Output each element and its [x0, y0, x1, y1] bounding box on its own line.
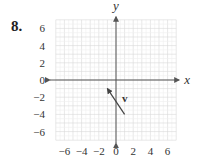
coordinate-plane: xy −6−4−202466420−2−4−6 v	[0, 0, 198, 161]
y-tick-label: −4	[33, 108, 45, 120]
x-tick-label: 2	[130, 145, 136, 157]
vector-label: v	[122, 92, 128, 104]
y-axis-label: y	[111, 0, 119, 13]
x-tick-label: 6	[165, 145, 171, 157]
y-tick-label: 2	[40, 57, 46, 69]
y-tick-label: 4	[40, 40, 46, 52]
x-tick-label: 4	[148, 145, 154, 157]
x-tick-label: 0	[113, 145, 119, 157]
x-tick-label: −2	[93, 145, 105, 157]
x-axis-label: x	[183, 72, 190, 87]
y-tick-label: 6	[40, 22, 46, 34]
y-tick-label: −6	[33, 126, 45, 138]
y-tick-label: −2	[33, 91, 45, 103]
y-tick-label: 0	[40, 74, 46, 86]
x-tick-label: −6	[59, 145, 71, 157]
x-tick-label: −4	[76, 145, 88, 157]
